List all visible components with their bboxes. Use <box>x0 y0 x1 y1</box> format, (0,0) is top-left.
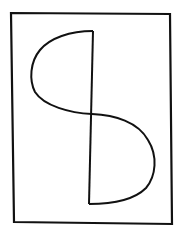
lower-right-lobe <box>89 114 155 204</box>
sketch-canvas <box>0 0 182 233</box>
sketch-drawing <box>0 0 182 233</box>
upper-left-lobe <box>31 31 93 114</box>
vertical-line <box>89 31 93 204</box>
